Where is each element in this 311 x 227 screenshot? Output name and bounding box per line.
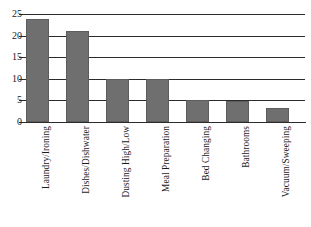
- x-axis-tick-label: Vacuum/Sweeping: [282, 126, 291, 197]
- x-axis-tick-label: Dusting High/Low: [122, 126, 131, 198]
- y-tick-label: 20: [12, 31, 22, 41]
- bar: [146, 79, 168, 122]
- x-axis-line: [25, 122, 306, 123]
- bar: [186, 100, 208, 122]
- x-axis-tick-label: Bed Changing: [202, 126, 211, 181]
- x-axis-tick-label: Laundry/Ironing: [42, 126, 51, 189]
- bars-layer: [25, 12, 305, 122]
- y-tick-label: 0: [17, 117, 22, 127]
- x-axis-tick-label: Meal Preparation: [162, 126, 171, 192]
- x-axis-tick-label: Bathrooms: [242, 126, 251, 168]
- y-tick-label: 5: [17, 95, 22, 105]
- bar: [106, 79, 128, 122]
- bar: [66, 31, 88, 122]
- x-axis-tick-label: Dishes/Dishwater: [82, 126, 91, 194]
- y-tick-label: 15: [12, 52, 22, 62]
- bar-chart: 0510152025 Laundry/IroningDishes/Dishwat…: [0, 0, 311, 227]
- y-tick-label: 25: [12, 9, 22, 19]
- bar: [266, 108, 288, 122]
- bar: [26, 19, 48, 122]
- bar: [226, 101, 248, 122]
- y-tick-label: 10: [12, 74, 22, 84]
